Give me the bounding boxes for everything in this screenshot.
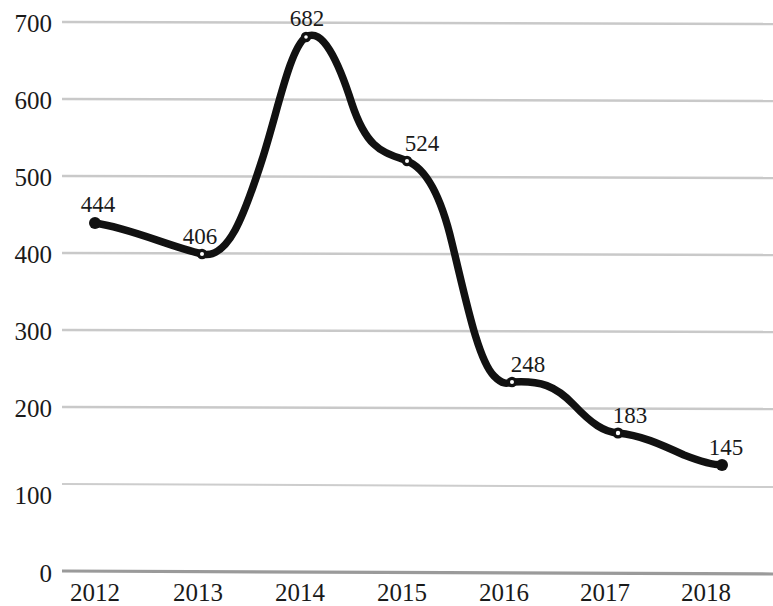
x-tick-label-2015: 2015 <box>377 580 427 605</box>
data-label-2016: 248 <box>511 353 546 376</box>
data-label-2013: 406 <box>183 225 218 248</box>
line-chart: 700 600 500 400 300 200 100 0 2012 2013 … <box>0 0 773 606</box>
y-tick-label-700: 700 <box>0 11 52 36</box>
data-label-2012: 444 <box>81 193 116 216</box>
data-label-2017: 183 <box>613 404 648 427</box>
y-tick-label-600: 600 <box>0 88 52 113</box>
y-tick-label-500: 500 <box>0 165 52 190</box>
y-tick-label-0: 0 <box>0 561 52 586</box>
y-tick-label-200: 200 <box>0 396 52 421</box>
y-tick-label-100: 100 <box>0 483 52 508</box>
x-axis-baseline <box>62 571 773 574</box>
x-tick-label-2018: 2018 <box>681 580 731 605</box>
data-label-2015: 524 <box>405 132 440 155</box>
gridlines <box>62 22 773 487</box>
x-tick-label-2013: 2013 <box>173 580 223 605</box>
y-tick-label-400: 400 <box>0 242 52 267</box>
x-tick-label-2017: 2017 <box>580 580 630 605</box>
data-label-2018: 145 <box>709 436 744 459</box>
y-tick-label-300: 300 <box>0 319 52 344</box>
x-tick-label-2014: 2014 <box>275 580 325 605</box>
x-tick-label-2016: 2016 <box>479 580 529 605</box>
x-tick-label-2012: 2012 <box>70 580 120 605</box>
data-label-2014: 682 <box>290 7 325 30</box>
chart-plot-area <box>0 0 773 606</box>
